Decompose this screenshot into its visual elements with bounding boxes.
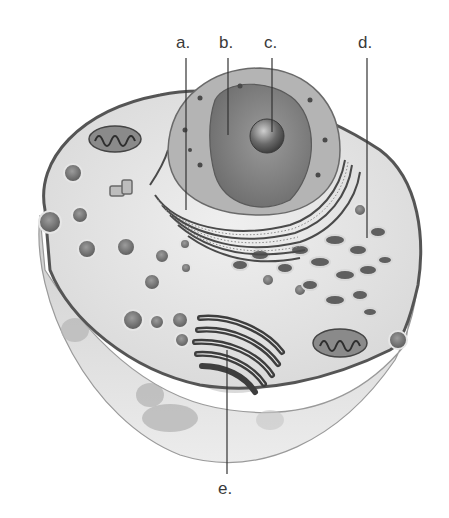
- cell-diagram: a. b. c. d. e.: [0, 0, 449, 518]
- label-d: d.: [358, 34, 372, 51]
- mitochondrion-lower: [313, 329, 367, 357]
- label-b: b.: [219, 34, 233, 51]
- mitochondrion-upper: [89, 126, 141, 152]
- label-e: e.: [218, 480, 232, 497]
- label-a: a.: [176, 34, 190, 51]
- cell-illustration: [0, 0, 449, 518]
- label-c: c.: [264, 34, 277, 51]
- nucleolus: [250, 119, 284, 153]
